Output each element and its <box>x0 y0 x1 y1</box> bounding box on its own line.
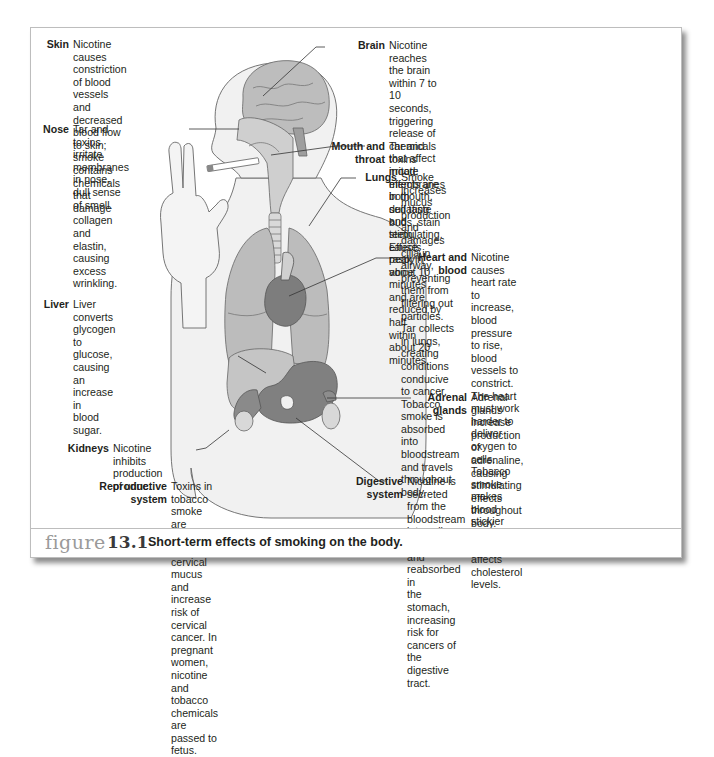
label-brain: Brain <box>327 39 385 52</box>
label-skin: Skin <box>31 38 69 51</box>
figure-frame: Skin Nicotine causes constriction of blo… <box>30 27 682 558</box>
text-lungs: Smoke increases mucus production and dam… <box>401 171 459 498</box>
text-nose: Tar and toxins irritate membranes in nos… <box>73 123 129 211</box>
figure-number: 13.1 <box>107 532 148 552</box>
label-heart-blood: Heart and blood <box>411 251 467 276</box>
label-kidneys: Kidneys <box>31 442 109 455</box>
label-liver: Liver <box>31 298 69 311</box>
label-reproductive: Reproductive system <box>31 480 167 505</box>
figure-caption-bar: figure 13.1 Short-term effects of smokin… <box>31 528 681 557</box>
figure-label-word: figure <box>45 531 106 553</box>
text-digestive: Nicotine is secreted from the bloodstrea… <box>407 475 465 689</box>
label-nose: Nose <box>31 123 69 136</box>
label-lungs: Lungs <box>357 171 397 184</box>
text-reproductive: Toxins in tobacco smoke are secreted int… <box>171 480 218 757</box>
figure-caption: Short-term effects of smoking on the bod… <box>148 535 403 549</box>
label-digestive: Digestive system <box>347 475 403 500</box>
text-liver: Liver converts glycogen to glucose, caus… <box>73 298 115 437</box>
label-mouth-throat: Mouth and throat <box>327 140 385 165</box>
label-adrenal: Adrenal glands <box>411 391 467 416</box>
text-adrenal: Adrenal glands increase production of ad… <box>471 391 523 530</box>
